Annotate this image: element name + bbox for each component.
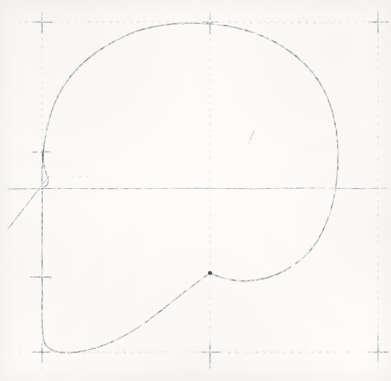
drawing-canvas: Scanned Geometric Construction Drawing <box>0 0 391 381</box>
contour-junction-point <box>208 271 212 275</box>
scan-figure: Scanned Geometric Construction Drawing <box>0 0 391 381</box>
paper-background <box>0 0 391 381</box>
